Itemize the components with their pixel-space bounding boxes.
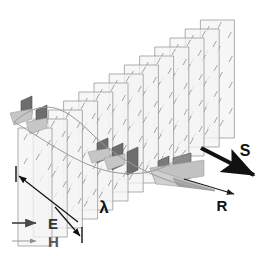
- em-wave-diagram: S R λ E H: [0, 0, 269, 256]
- legend-label-h: H: [48, 233, 59, 250]
- wavelength-label: λ: [99, 198, 109, 217]
- wavefront-plane: [18, 128, 52, 246]
- figure-canvas: S R λ E H: [0, 0, 269, 256]
- legend-label-e: E: [48, 215, 58, 232]
- wavefront-plane-group: [18, 20, 234, 246]
- poynting-label: S: [240, 142, 251, 159]
- propagation-label: R: [217, 197, 228, 214]
